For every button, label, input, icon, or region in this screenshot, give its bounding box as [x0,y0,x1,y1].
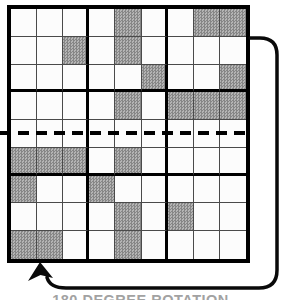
grid-cell [63,65,89,93]
grid-cell [194,65,220,93]
grid-cell [168,231,194,259]
grid-cell [220,148,246,176]
grid-cell [142,203,168,231]
grid-cell [220,203,246,231]
grid-cell [194,176,220,204]
grid-cell [115,176,141,204]
shaded-cell [220,9,246,37]
shaded-cell [168,92,194,120]
shaded-cell [142,65,168,93]
shaded-cell [115,9,141,37]
shaded-cell [11,176,37,204]
mirror-axis-dashed-line [0,131,251,135]
grid-cell [37,37,63,65]
grid-cell [63,231,89,259]
grid-cell [89,148,115,176]
grid-cell [63,92,89,120]
grid-cell [220,37,246,65]
grid-cell [63,9,89,37]
shaded-cell [194,92,220,120]
grid-cell [89,231,115,259]
grid-cell [63,176,89,204]
grid-cell [89,9,115,37]
grid-cell [168,37,194,65]
grid-cell [11,65,37,93]
grid-cell [63,203,89,231]
grid-cell [142,37,168,65]
grid-cell [11,9,37,37]
shaded-cell [220,65,246,93]
grid-cell [89,65,115,93]
grid-cell [194,148,220,176]
shaded-cell [115,37,141,65]
rotation-symmetry-figure: 180 DEGREE ROTATION [0,0,281,300]
grid-cell [89,37,115,65]
grid-cell [37,65,63,93]
shaded-cell [11,148,37,176]
shaded-cell [115,148,141,176]
grid-cell [11,92,37,120]
shaded-cell [115,92,141,120]
grid-cell [194,231,220,259]
shaded-cell [115,203,141,231]
grid-cell [142,92,168,120]
grid-cell [168,9,194,37]
grid-cell [11,203,37,231]
shaded-cell [220,92,246,120]
grid-cell [220,231,246,259]
grid-cell [168,176,194,204]
grid-cell [89,203,115,231]
grid-cell [168,65,194,93]
grid-cell [37,9,63,37]
grid-cell [37,92,63,120]
grid-cell [194,203,220,231]
shaded-cell [37,231,63,259]
grid-cell [142,231,168,259]
grid-cell [142,148,168,176]
grid-cell [142,9,168,37]
grid-cell [37,176,63,204]
shaded-cell [168,203,194,231]
shaded-cell [194,9,220,37]
grid-cell [220,176,246,204]
grid-cell [168,148,194,176]
grid-cell [142,176,168,204]
grid-cell [115,65,141,93]
grid-cell [11,37,37,65]
caption-text: 180 DEGREE ROTATION [0,292,281,300]
shaded-cell [63,148,89,176]
shaded-cell [89,176,115,204]
shaded-cell [37,148,63,176]
shaded-cell [11,231,37,259]
grid-cell [194,37,220,65]
grid-cell [37,203,63,231]
grid-cell [89,92,115,120]
shaded-cell [63,37,89,65]
shaded-cell [115,231,141,259]
